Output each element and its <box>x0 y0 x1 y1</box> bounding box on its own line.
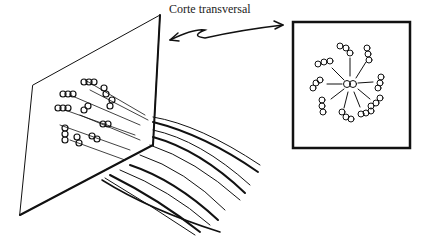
chain-ends <box>55 79 115 146</box>
fiber-bundle <box>102 117 260 235</box>
radial-chains <box>310 43 384 122</box>
arrow-icon <box>170 25 283 40</box>
cross-section-inset <box>293 22 410 148</box>
fiber-diagram <box>0 0 426 245</box>
